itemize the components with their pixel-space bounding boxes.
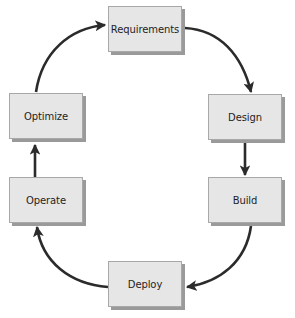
node-optimize: Optimize xyxy=(9,93,83,139)
node-build: Build xyxy=(208,177,282,223)
node-deploy: Deploy xyxy=(108,261,182,307)
arrow-build-to-deploy xyxy=(187,226,251,287)
arrow-optimize-to-requirements xyxy=(36,25,105,92)
node-label: Deploy xyxy=(128,279,162,290)
node-label: Operate xyxy=(26,195,66,206)
node-operate: Operate xyxy=(9,177,83,223)
node-design: Design xyxy=(208,94,282,140)
lifecycle-diagram: Requirements Design Build Deploy Operate… xyxy=(0,0,295,318)
node-label: Requirements xyxy=(111,24,179,35)
node-label: Design xyxy=(228,112,262,123)
node-label: Build xyxy=(233,195,258,206)
node-label: Optimize xyxy=(24,111,68,122)
arrow-deploy-to-operate xyxy=(37,227,108,287)
arrow-requirements-to-design xyxy=(185,28,251,92)
node-requirements: Requirements xyxy=(108,6,182,52)
